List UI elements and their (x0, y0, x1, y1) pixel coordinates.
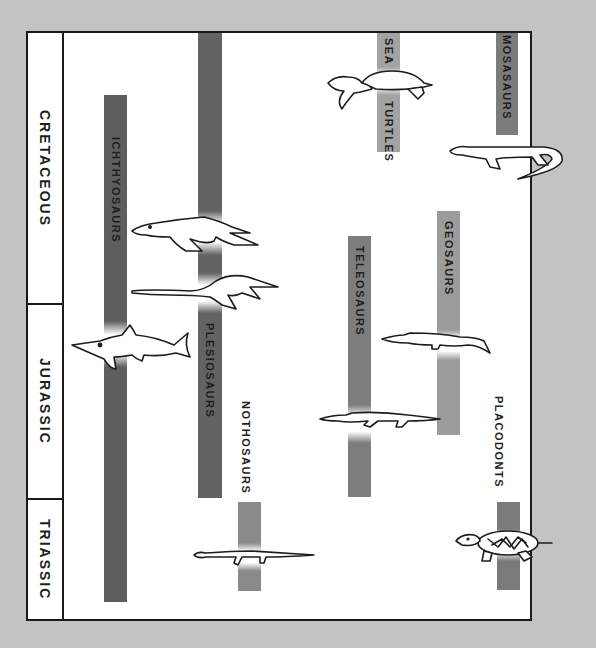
nothosaur-icon (192, 547, 316, 569)
period-label: CRETACEOUS (37, 110, 53, 227)
pliosaur-icon (130, 215, 262, 255)
teleosaur-icon (318, 409, 442, 431)
teleosaurs-bar: TELEOSAURS (348, 236, 371, 497)
group-label: MOSASAURS (501, 35, 513, 120)
sea-turtle-icon (326, 69, 434, 111)
group-label: PLESIOSAURS (204, 323, 216, 418)
mosasaur-icon (448, 143, 566, 183)
period-triassic: TRIASSIC (28, 498, 62, 619)
period-label: JURASSIC (37, 358, 53, 445)
ichthyosaur-icon (70, 323, 196, 375)
nothosaurs-label: NOTHOSAURS (240, 401, 252, 498)
group-label: ICHTHYOSAURS (110, 137, 122, 243)
mosasaurs-bar: MOSASAURS (496, 33, 518, 135)
plesiosaur-icon (130, 271, 282, 313)
group-label: SEA (383, 38, 395, 65)
geosaur-icon (380, 331, 492, 359)
plesiosaurs-bar: PLESIOSAURS (198, 33, 222, 498)
period-column: CRETACEOUS JURASSIC TRIASSIC (28, 33, 64, 619)
placodonts-label: PLACODONTS (493, 396, 505, 492)
period-cretaceous: CRETACEOUS (28, 33, 62, 303)
period-label: TRIASSIC (37, 519, 53, 600)
time-range-chart: CRETACEOUS JURASSIC TRIASSIC ICHTHYOSAUR… (26, 31, 532, 621)
placodont-icon (454, 527, 556, 567)
period-jurassic: JURASSIC (28, 303, 62, 498)
group-label: GEOSAURS (443, 221, 455, 296)
group-label: TELEOSAURS (354, 246, 366, 336)
geosaurs-bar: GEOSAURS (437, 211, 460, 435)
